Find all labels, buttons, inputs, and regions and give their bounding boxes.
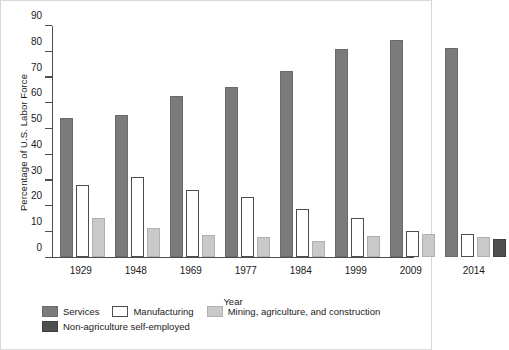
legend-swatch-services <box>42 306 58 317</box>
bar-manufacturing <box>296 209 309 257</box>
y-axis-title: Percentage of U.S. Labor Force <box>18 43 29 243</box>
bar-manufacturing <box>406 231 419 257</box>
x-tick-label: 1948 <box>108 265 163 276</box>
bar-manufacturing <box>241 197 254 256</box>
bar-group: 1929 <box>53 26 108 257</box>
bar-group: 1999 <box>328 26 383 257</box>
y-tick-mark <box>45 76 52 77</box>
y-tick-mark <box>45 205 52 206</box>
x-tick-label: 1969 <box>163 265 218 276</box>
y-tick-label: 40 <box>31 138 42 149</box>
bar-group: 2009 <box>383 26 438 257</box>
plot-area: 0102030405060708090 19291948196919771984… <box>52 26 414 258</box>
legend-label: Manufacturing <box>133 306 193 317</box>
y-tick-mark <box>45 51 52 52</box>
legend-row-primary: ServicesManufacturingMining, agriculture… <box>42 306 427 317</box>
bar-services <box>335 49 348 257</box>
bar-groups: 19291948196919771984199920092014 <box>53 26 414 257</box>
y-tick-mark <box>45 102 52 103</box>
bar-group: 1984 <box>273 26 328 257</box>
bar-services <box>170 96 183 257</box>
legend-swatch-selfemp <box>42 321 58 332</box>
y-tick-label: 20 <box>31 190 42 201</box>
y-tick-mark <box>45 257 52 258</box>
bar-selfemp <box>493 239 506 257</box>
y-tick-label: 30 <box>31 164 42 175</box>
legend-item: Manufacturing <box>112 306 193 317</box>
bar-services <box>445 48 458 257</box>
y-tick-label: 10 <box>31 216 42 227</box>
y-tick-label: 50 <box>31 113 42 124</box>
bar-manufacturing <box>461 234 474 257</box>
bar-manufacturing <box>76 185 89 257</box>
legend-row-secondary: Non-agriculture self-employed <box>42 321 427 332</box>
x-axis-line <box>52 257 414 258</box>
y-tick-mark <box>45 179 52 180</box>
bar-manufacturing <box>351 218 364 257</box>
bar-mining <box>92 218 105 257</box>
bar-mining <box>257 237 270 256</box>
y-tick-label: 60 <box>31 87 42 98</box>
y-tick-label: 70 <box>31 61 42 72</box>
chart-legend: ServicesManufacturingMining, agriculture… <box>42 306 427 336</box>
x-tick-label: 1984 <box>273 265 328 276</box>
bar-manufacturing <box>186 190 199 257</box>
bar-group: 1948 <box>108 26 163 257</box>
y-tick-mark <box>45 154 52 155</box>
x-tick-label: 2009 <box>383 265 438 276</box>
bar-group: 2014 <box>438 26 509 257</box>
bar-services <box>225 87 238 257</box>
legend-item: Non-agriculture self-employed <box>42 321 190 332</box>
bar-services <box>60 118 73 257</box>
bar-mining <box>422 234 435 257</box>
bar-mining <box>312 241 325 256</box>
bar-manufacturing <box>131 177 144 257</box>
legend-swatch-manufacturing <box>112 306 128 317</box>
y-tick-mark <box>45 128 52 129</box>
legend-swatch-mining <box>207 306 223 317</box>
y-tick-label: 0 <box>36 242 42 253</box>
bar-services <box>390 40 403 257</box>
legend-item: Mining, agriculture, and construction <box>207 306 381 317</box>
legend-item: Services <box>42 306 99 317</box>
y-tick-label: 80 <box>31 35 42 46</box>
y-tick-mark <box>45 25 52 26</box>
legend-label: Non-agriculture self-employed <box>63 321 190 332</box>
x-tick-label: 1929 <box>53 265 108 276</box>
bar-services <box>115 115 128 257</box>
y-tick-mark <box>45 231 52 232</box>
bar-mining <box>367 236 380 257</box>
bar-group: 1969 <box>163 26 218 257</box>
x-tick-label: 1977 <box>218 265 273 276</box>
bar-mining <box>477 237 490 256</box>
x-tick-label: 1999 <box>328 265 383 276</box>
bar-services <box>280 71 293 257</box>
bar-mining <box>202 235 215 257</box>
bar-mining <box>147 228 160 256</box>
x-tick-label: 2014 <box>438 265 509 276</box>
legend-label: Services <box>63 306 99 317</box>
y-tick-label: 90 <box>31 10 42 21</box>
legend-label: Mining, agriculture, and construction <box>228 306 381 317</box>
bar-group: 1977 <box>218 26 273 257</box>
